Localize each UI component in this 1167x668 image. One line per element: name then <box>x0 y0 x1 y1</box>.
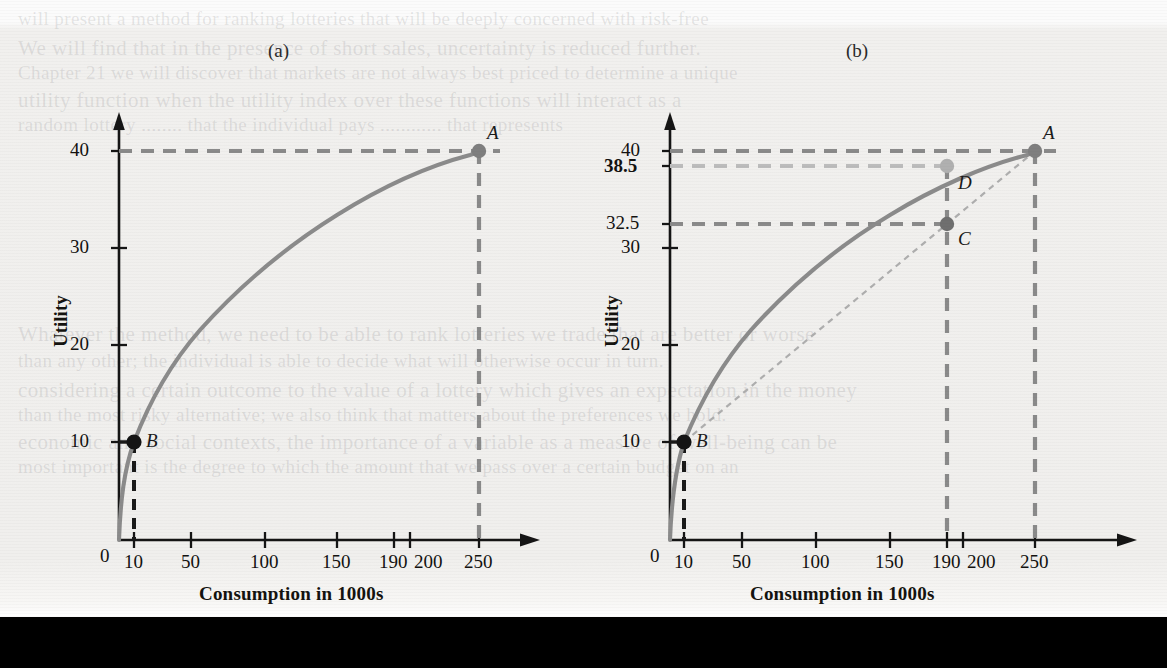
y-tick-label-10: 10 <box>70 430 89 452</box>
x-tick-label-100: 100 <box>250 551 279 573</box>
point-label-B: B <box>146 430 158 452</box>
data-point-A <box>1028 144 1042 158</box>
y-tick-label-20: 20 <box>621 333 640 355</box>
chart-a-svg <box>0 0 583 617</box>
x-tick-label-250: 250 <box>1020 551 1049 573</box>
chart-b-svg <box>584 0 1167 617</box>
utility-curve-b <box>670 152 1035 540</box>
chart-panel-b: (b) <box>584 0 1167 617</box>
x-tick-label-10: 10 <box>674 551 693 573</box>
y-tick-label-30: 30 <box>70 236 89 258</box>
y-axis-title: Utility <box>601 295 623 347</box>
data-point-C <box>940 217 954 231</box>
x-axis-title: Consumption in 1000s <box>750 583 935 605</box>
chord-line-BA <box>684 151 1035 442</box>
point-label-A: A <box>1043 122 1055 144</box>
point-label-A: A <box>487 122 499 144</box>
figure-page: will present a method for ranking lotter… <box>0 0 1167 668</box>
x-tick-label-0: 0 <box>650 545 660 567</box>
y-tick-label-32-5: 32.5 <box>606 212 639 234</box>
point-label-D: D <box>958 172 972 194</box>
x-tick-label-50: 50 <box>181 551 200 573</box>
y-axis-arrow <box>664 112 676 130</box>
x-tick-label-200: 200 <box>414 551 443 573</box>
y-tick-label-30: 30 <box>621 236 640 258</box>
x-tick-label-50: 50 <box>732 551 751 573</box>
utility-curve-a <box>119 152 479 540</box>
data-point-D <box>940 159 954 173</box>
bottom-black-bar <box>0 617 1167 668</box>
x-axis-title: Consumption in 1000s <box>199 583 384 605</box>
x-axis-arrow <box>1117 534 1137 547</box>
axes-b <box>664 112 1137 547</box>
y-tick-label-38-5: 38.5 <box>604 155 637 177</box>
chart-panel-a: (a) <box>0 0 583 617</box>
x-tick-label-10: 10 <box>124 551 143 573</box>
data-point-B <box>676 434 691 449</box>
y-axis-title: Utility <box>50 295 72 347</box>
x-tick-label-190: 190 <box>932 551 961 573</box>
x-tick-label-150: 150 <box>322 551 351 573</box>
x-tick-label-100: 100 <box>801 551 830 573</box>
x-tick-label-250: 250 <box>464 551 493 573</box>
data-point-A <box>472 144 486 158</box>
y-tick-label-10: 10 <box>621 430 640 452</box>
data-point-B <box>126 434 141 449</box>
x-tick-label-200: 200 <box>967 551 996 573</box>
y-tick-label-40: 40 <box>70 139 89 161</box>
point-label-C: C <box>958 228 971 250</box>
x-axis-arrow <box>520 534 540 547</box>
x-tick-label-0: 0 <box>100 545 110 567</box>
x-tick-label-150: 150 <box>875 551 904 573</box>
y-tick-label-20: 20 <box>70 333 89 355</box>
point-label-B: B <box>696 430 708 452</box>
y-axis-arrow <box>113 112 125 130</box>
x-tick-label-190: 190 <box>379 551 408 573</box>
axes-a <box>113 112 540 547</box>
